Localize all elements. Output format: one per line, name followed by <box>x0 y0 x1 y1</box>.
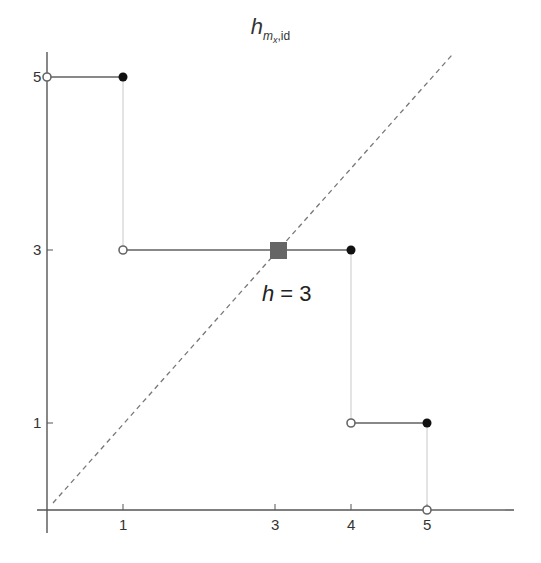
fixed-point-square-marker <box>270 242 287 259</box>
annotation-value: = 3 <box>274 281 311 306</box>
y-tick-label-3: 3 <box>33 241 41 258</box>
x-tick-label-1: 1 <box>119 516 127 533</box>
title-suffix: ,id <box>278 29 291 43</box>
title-main: h <box>251 14 263 39</box>
chart-title: hmx,id <box>0 14 541 40</box>
chart-area: hmx,id 1 3 4 5 5 3 1 h = 3 <box>0 0 541 563</box>
identity-dashed-line <box>53 55 452 503</box>
x-ticks <box>123 504 427 510</box>
annotation-variable: h <box>262 281 274 306</box>
x-tick-label-4: 4 <box>347 516 355 533</box>
y-tick-label-1: 1 <box>33 414 41 431</box>
fixed-point-annotation: h = 3 <box>262 281 312 307</box>
title-subscript: mx,id <box>263 29 290 43</box>
x-tick-label-3: 3 <box>271 516 279 533</box>
title-subsubscript: x <box>273 35 278 45</box>
x-tick-label-5: 5 <box>423 516 431 533</box>
y-ticks <box>47 77 53 423</box>
y-tick-label-5: 5 <box>33 68 41 85</box>
open-markers <box>43 73 431 514</box>
